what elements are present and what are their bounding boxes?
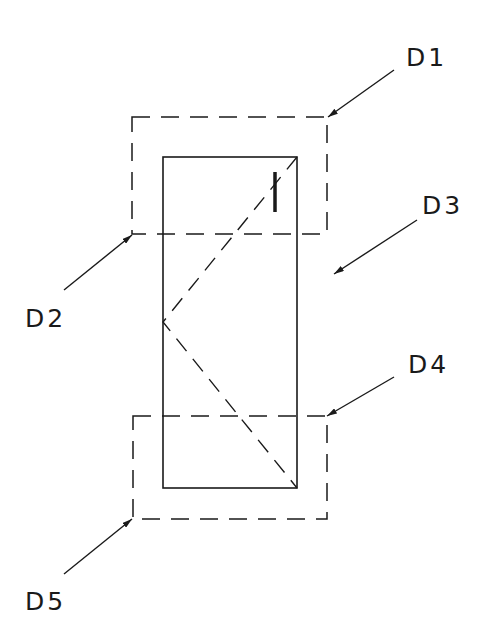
technical-drawing: D1 D2 D3 D4 D5 bbox=[0, 0, 495, 641]
d1-leader-arrow bbox=[328, 70, 394, 117]
main-body-rectangle bbox=[163, 157, 297, 488]
bottom-dashed-region bbox=[133, 416, 327, 519]
d3-leader-arrow bbox=[334, 220, 417, 274]
d5-leader-arrow bbox=[64, 519, 132, 574]
label-d2: D2 bbox=[25, 304, 66, 333]
label-d4: D4 bbox=[408, 350, 449, 379]
dashed-diagonal-lines bbox=[163, 157, 297, 488]
label-d5: D5 bbox=[25, 587, 66, 616]
d4-leader-arrow bbox=[327, 377, 394, 416]
label-d1: D1 bbox=[406, 43, 447, 72]
d2-leader-arrow bbox=[64, 235, 132, 290]
label-d3: D3 bbox=[422, 191, 463, 220]
